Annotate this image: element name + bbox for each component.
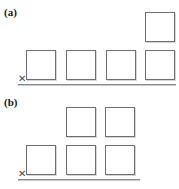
unit-box bbox=[145, 12, 175, 42]
panel-a-axis-line bbox=[18, 84, 176, 85]
unit-box bbox=[66, 145, 96, 175]
figure-canvas: (a) ✕ (b) ✕ bbox=[0, 0, 179, 189]
panel-b-axis-line bbox=[18, 179, 140, 180]
unit-box bbox=[106, 50, 136, 80]
unit-box bbox=[105, 107, 135, 137]
panel-a-column-1 bbox=[26, 50, 56, 80]
unit-box bbox=[105, 145, 135, 175]
panel-b: (b) ✕ bbox=[0, 94, 179, 189]
panel-a: (a) ✕ bbox=[0, 0, 179, 94]
panel-a-column-3 bbox=[106, 50, 136, 80]
panel-b-column-2 bbox=[66, 107, 96, 175]
panel-a-column-4 bbox=[145, 12, 175, 80]
unit-box bbox=[145, 50, 175, 80]
panel-a-column-2 bbox=[66, 50, 96, 80]
panel-b-origin-mark: ✕ bbox=[18, 169, 26, 179]
unit-box bbox=[66, 50, 96, 80]
panel-b-column-1 bbox=[26, 145, 56, 175]
panel-a-origin-mark: ✕ bbox=[18, 74, 26, 84]
panel-a-label: (a) bbox=[4, 7, 17, 18]
unit-box bbox=[26, 50, 56, 80]
panel-b-column-3 bbox=[105, 107, 135, 175]
unit-box bbox=[26, 145, 56, 175]
panel-b-label: (b) bbox=[4, 97, 17, 108]
unit-box bbox=[66, 107, 96, 137]
